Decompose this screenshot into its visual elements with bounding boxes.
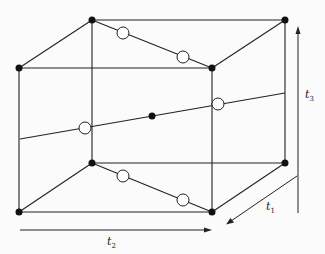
t2-label: t2 (107, 235, 116, 250)
cube-diagram: t3 t2 t1 (0, 0, 325, 254)
axis-arrows (20, 26, 301, 233)
filled-vertices (16, 17, 289, 216)
t1-label: t1 (266, 200, 275, 215)
t3-label: t3 (305, 88, 314, 103)
